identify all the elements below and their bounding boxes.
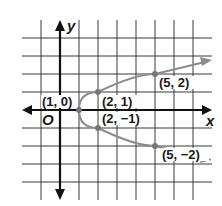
y-axis-down-arrow-icon	[55, 189, 65, 200]
point-label-1-0: (1, 0)	[42, 94, 72, 109]
x-axis-left-arrow-icon	[22, 105, 32, 115]
point-label-2-neg1: (2, −1)	[102, 111, 140, 126]
y-axis-up-arrow-icon	[55, 20, 65, 31]
curve-upper-arrow-icon	[200, 57, 212, 66]
point-2-neg1	[95, 125, 101, 131]
origin-label: O	[42, 111, 54, 128]
x-axis-label: x	[205, 112, 215, 129]
point-label-5-2: (5, 2)	[159, 75, 189, 90]
point-2-1	[95, 89, 101, 95]
point-5-neg2	[152, 143, 158, 149]
point-label-5-neg2: (5, −2)	[162, 147, 200, 162]
point-5-2	[152, 71, 158, 77]
y-axis-label: y	[66, 17, 76, 34]
parabola-graph: y x O (1, 0) (2, 1) (2, −1) (5, 2) (5, −…	[0, 0, 222, 206]
point-label-2-1: (2, 1)	[102, 94, 132, 109]
